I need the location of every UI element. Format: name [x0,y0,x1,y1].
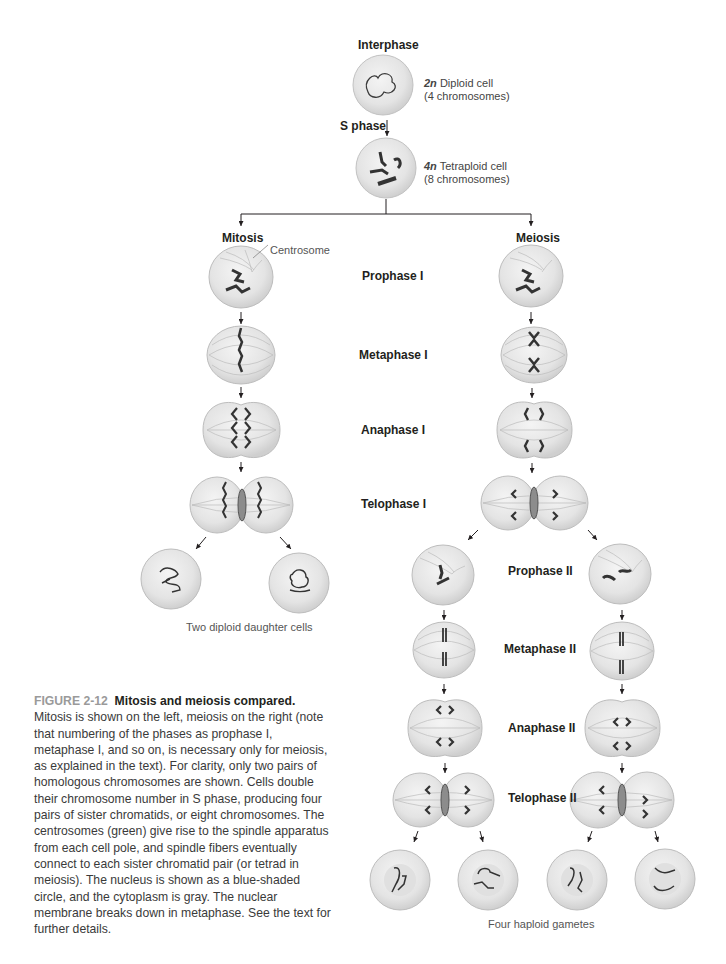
interphase-label: Interphase [358,38,419,52]
diploid-count: (4 chromosomes) [424,90,510,102]
gamete-1 [370,850,430,910]
meiosis-metaphase2-left [413,622,475,678]
phase-anaphase-2: Anaphase II [508,721,575,735]
figure-caption: FIGURE 2-12 Mitosis and meiosis compared… [34,693,334,937]
meiosis-prophase-cell [499,245,563,307]
figure-number: FIGURE 2-12 [34,694,108,708]
tetraploid-label: 4n Tetraploid cell (8 chromosomes) [424,160,510,186]
phase-telophase-2: Telophase II [508,791,576,805]
phase-telophase-1: Telophase I [361,497,426,511]
centrosome-label: Centrosome [270,244,330,256]
meiosis-telophase2-left [393,773,494,827]
mitosis-result-label: Two diploid daughter cells [186,621,313,633]
mitosis-daughter-cell-left [141,549,201,609]
diploid-label: 2n Diploid cell (4 chromosomes) [424,77,510,103]
meiosis-prophase2-left [412,545,474,605]
meiosis-result-label: Four haploid gametes [488,918,594,930]
gamete-3 [547,850,607,910]
gamete-2 [458,850,518,910]
tetraploid-cell [356,138,416,198]
mitosis-anaphase-cell [203,402,280,457]
meiosis-anaphase2-left [408,700,482,757]
diploid-ploidy: 2n [424,77,437,89]
phase-metaphase-1: Metaphase I [359,348,428,362]
tetraploid-ploidy: 4n [424,160,437,172]
meiosis-telophase2-right [570,772,674,828]
meiosis-telophase-cell [481,476,588,530]
mitosis-label: Mitosis [222,231,263,245]
mitosis-daughter-cell-right [269,553,329,613]
meiosis-anaphase-cell [497,402,572,458]
mitosis-telophase-cell [190,477,293,533]
tetraploid-text: Tetraploid cell [440,160,507,172]
s-phase-label: S phase [340,119,386,133]
branch-connector [241,199,531,226]
tetraploid-count: (8 chromosomes) [424,173,510,185]
figure-title: Mitosis and meiosis compared. [115,694,296,708]
phase-metaphase-2: Metaphase II [504,642,576,656]
meiosis-prophase2-right [589,544,651,604]
meiosis-metaphase-cell [501,327,567,383]
mitosis-prophase-cell [209,246,273,308]
meiosis-metaphase2-right [590,622,654,680]
figure-caption-text: Mitosis is shown on the left, meiosis on… [34,710,331,936]
diploid-text: Diploid cell [440,77,493,89]
meiosis-label: Meiosis [516,231,560,245]
interphase-cell [353,55,413,115]
phase-prophase-2: Prophase II [508,564,573,578]
phase-prophase-1: Prophase I [362,269,423,283]
phase-anaphase-1: Anaphase I [361,423,425,437]
gamete-4 [635,849,695,909]
mitosis-metaphase-cell [207,326,275,384]
meiosis-anaphase2-right [585,700,660,757]
